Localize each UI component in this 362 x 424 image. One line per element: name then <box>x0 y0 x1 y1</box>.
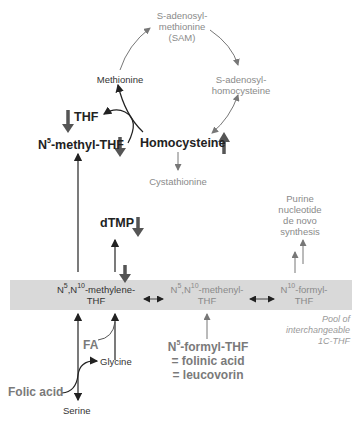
sam-label: S-adenosyl-methionine(SAM) <box>150 10 214 43</box>
thf-label: THF <box>74 112 98 123</box>
methionine-label: Methionine <box>92 74 148 85</box>
serine-label: Serine <box>63 405 90 416</box>
fa-label: FA <box>83 340 98 351</box>
glycine-label: Glycine <box>100 356 132 367</box>
methenyl-thf-node: N5,N10-methenyl- THF <box>164 284 250 306</box>
methyl-thf-label: N5-methyl-THF <box>38 140 124 151</box>
methylene-thf-node: N5,N10-methylene- THF <box>48 284 144 306</box>
thf-decrease-arrow <box>62 110 74 133</box>
folinic-acid-label: N5-formyl-THF = folinic acid = leucovori… <box>160 340 256 382</box>
dtmp-label: dTMP <box>100 218 134 229</box>
cystathionine-label: Cystathionine <box>146 176 210 187</box>
formyl-thf-node: N10-formyl- THF <box>274 284 334 306</box>
homocysteine-label: Homocysteine <box>140 138 216 149</box>
pool-caption: Pool ofinterchangeable1C-THF <box>272 314 350 347</box>
folic-acid-label: Folic acid <box>8 387 63 398</box>
sah-label: S-adenosyl-homocysteine <box>206 74 276 96</box>
folate-methionine-diagram: S-adenosyl-methionine(SAM) S-adenosyl-ho… <box>0 0 362 424</box>
methylene-thf-decrease-arrow <box>119 265 131 283</box>
purine-synthesis-label: Purinenucleotidede novosynthesis <box>272 193 328 237</box>
